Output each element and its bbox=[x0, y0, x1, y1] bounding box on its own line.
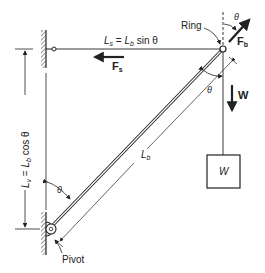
boom bbox=[52, 51, 221, 226]
boom-force-diagram: Pivot Ring θ Fb Ls = Lb sin θ Fs W W θ L… bbox=[0, 0, 265, 273]
upper-wall bbox=[41, 30, 46, 68]
theta-pivot-label: θ bbox=[57, 185, 62, 195]
ring bbox=[220, 46, 226, 52]
lb-label: Lb bbox=[141, 149, 151, 161]
pivot-label: Pivot bbox=[62, 254, 84, 265]
fb-label: Fb bbox=[237, 35, 248, 48]
pivot-leader bbox=[55, 240, 62, 253]
ring-label: Ring bbox=[181, 20, 202, 31]
ring-leader bbox=[204, 28, 220, 44]
lower-wall bbox=[41, 212, 46, 255]
theta-arc-top bbox=[224, 24, 236, 30]
w-force-label: W bbox=[238, 89, 249, 101]
theta-top-label: θ bbox=[234, 12, 239, 22]
weight-box-label: W bbox=[219, 166, 230, 177]
ls-equation: Ls = Lb sin θ bbox=[104, 35, 158, 47]
horizontal-cable bbox=[46, 47, 221, 51]
lv-equation: Lv = Lb cos θ bbox=[20, 131, 32, 188]
fs-label: Fs bbox=[112, 60, 123, 73]
theta-arc-ring bbox=[203, 70, 222, 76]
